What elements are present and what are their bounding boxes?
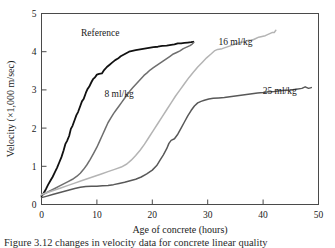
x-axis-tick-labels: 01020304050 — [39, 210, 323, 220]
y-tick-label-1: 1 — [32, 162, 37, 172]
figure-caption: Figure 3.12 changes in velocity data for… — [4, 237, 334, 248]
x-axis-ticks — [42, 200, 319, 205]
series-label-16-ml-kg: 16 ml/kg — [218, 37, 252, 47]
x-tick-label-40: 40 — [258, 210, 268, 220]
x-tick-label-10: 10 — [92, 210, 102, 220]
series-line-16-ml-kg — [42, 30, 276, 194]
y-tick-label-2: 2 — [32, 124, 37, 134]
x-tick-label-50: 50 — [314, 210, 324, 220]
series-line-8-ml-kg — [42, 43, 194, 196]
series-line-reference — [42, 42, 194, 196]
series-label-8-ml-kg: 8 ml/kg — [104, 89, 134, 99]
figure-container: 012345 01020304050 Reference8 ml/kg16 ml… — [0, 0, 335, 248]
y-axis-title: Velocity (×1,000 m/sec) — [5, 61, 17, 157]
x-tick-label-0: 0 — [39, 210, 44, 220]
y-tick-label-0: 0 — [32, 200, 37, 210]
y-axis-ticks — [42, 14, 47, 205]
y-tick-label-3: 3 — [32, 85, 37, 95]
series-annotation-group: Reference8 ml/kg16 ml/kg25 ml/kg — [81, 28, 297, 99]
x-tick-label-30: 30 — [203, 210, 213, 220]
x-tick-label-20: 20 — [148, 210, 158, 220]
x-axis-title: Age of concrete (hours) — [132, 224, 227, 236]
series-label-reference: Reference — [81, 28, 120, 38]
y-tick-label-5: 5 — [32, 9, 37, 19]
y-tick-label-4: 4 — [32, 47, 37, 57]
y-axis-tick-labels: 012345 — [32, 9, 37, 210]
velocity-vs-age-line-chart: 012345 01020304050 Reference8 ml/kg16 ml… — [0, 0, 335, 248]
plot-frame — [42, 14, 319, 205]
series-label-25-ml-kg: 25 ml/kg — [263, 86, 297, 96]
data-series-group — [42, 30, 312, 197]
